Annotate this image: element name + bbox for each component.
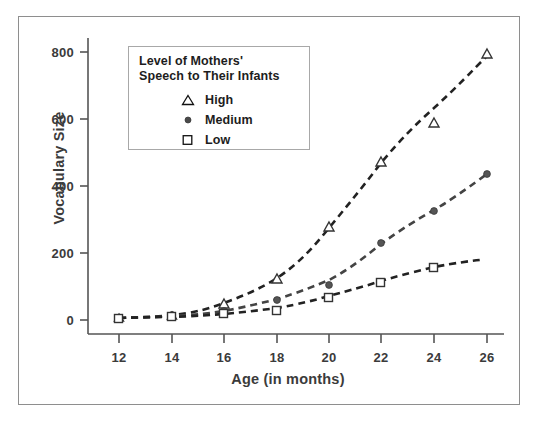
legend-title-line-2: Speech to Their Infants [139,69,280,84]
triangle-open-icon [177,94,199,106]
legend-label-low: Low [205,133,230,147]
legend-title-line-1: Level of Mothers' [139,54,280,69]
series-markers-low [115,264,438,323]
legend-title: Level of Mothers' Speech to Their Infant… [139,54,280,84]
square-open-icon [177,134,199,146]
x-tick-label-16: 16 [204,350,244,365]
legend-label-medium: Medium [205,113,253,127]
x-tick-label-24: 24 [414,350,454,365]
circle-filled-icon [177,114,199,126]
x-tick-label-22: 22 [361,350,401,365]
figure-container: 800 600 400 200 0 12 14 16 18 20 22 24 2… [0,0,538,421]
legend-item-low: Low [177,131,230,149]
y-axis-title: Vocabulary Size [51,93,67,243]
series-markers-medium [116,171,491,322]
x-tick-label-14: 14 [152,350,192,365]
series-line-medium [119,174,487,318]
x-tick-label-26: 26 [467,350,507,365]
y-tick-label-0: 0 [28,313,74,328]
y-axis-ticks [80,52,88,320]
x-axis-title: Age (in months) [88,371,488,387]
y-tick-label-200: 200 [28,246,74,261]
legend-label-high: High [205,93,233,107]
legend-item-high: High [177,91,233,109]
x-tick-label-18: 18 [257,350,297,365]
x-tick-label-12: 12 [99,350,139,365]
series-line-low [119,260,480,318]
x-axis-ticks [119,334,487,343]
legend: Level of Mothers' Speech to Their Infant… [128,46,310,150]
x-tick-label-20: 20 [309,350,349,365]
legend-item-medium: Medium [177,111,253,129]
y-tick-label-800: 800 [28,45,74,60]
